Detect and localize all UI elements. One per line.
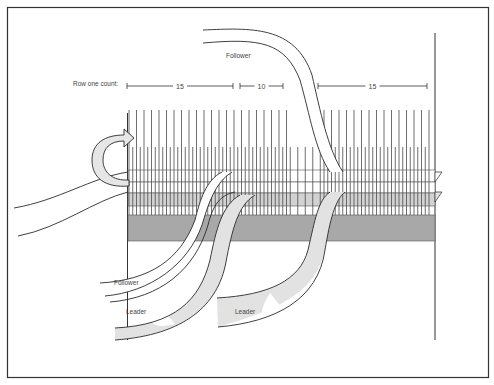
row-one-count-markers: 151015 (127, 82, 427, 90)
count-value: 15 (176, 83, 184, 90)
row-end-notch-bottom (435, 192, 442, 202)
twining-diagram: 151015 Follower Row one count: Follower … (0, 0, 494, 385)
warp-threads (129, 110, 429, 215)
weft-strand-lower (18, 192, 128, 236)
follower-top-band (203, 29, 343, 172)
count-value: 15 (369, 83, 377, 90)
count-value: 10 (258, 83, 266, 90)
label-leader-left: Leader (126, 309, 146, 316)
label-follower-top: Follower (226, 53, 251, 60)
label-row-one-count: Row one count: (73, 81, 118, 88)
label-leader-right: Leader (235, 309, 255, 316)
row-end-notch-top (435, 172, 442, 182)
woven-base-band (128, 215, 435, 241)
label-follower-bottom: Follower (114, 280, 139, 287)
